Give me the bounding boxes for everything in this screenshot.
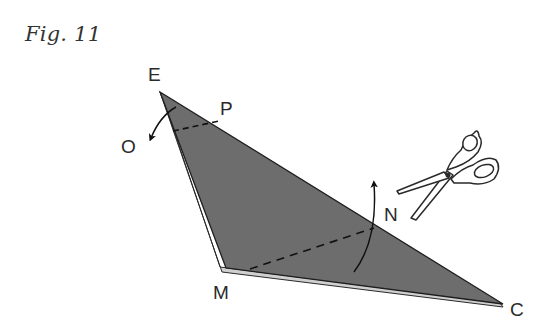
label-e: E: [148, 64, 161, 85]
folding-diagram: E P O N M C: [0, 0, 554, 333]
scissors-icon: [397, 131, 499, 220]
label-n: N: [384, 204, 398, 225]
label-o: O: [121, 136, 136, 157]
label-p: P: [220, 98, 233, 119]
label-m: M: [213, 282, 229, 303]
label-c: C: [510, 299, 524, 320]
paper-triangle: [160, 92, 503, 304]
